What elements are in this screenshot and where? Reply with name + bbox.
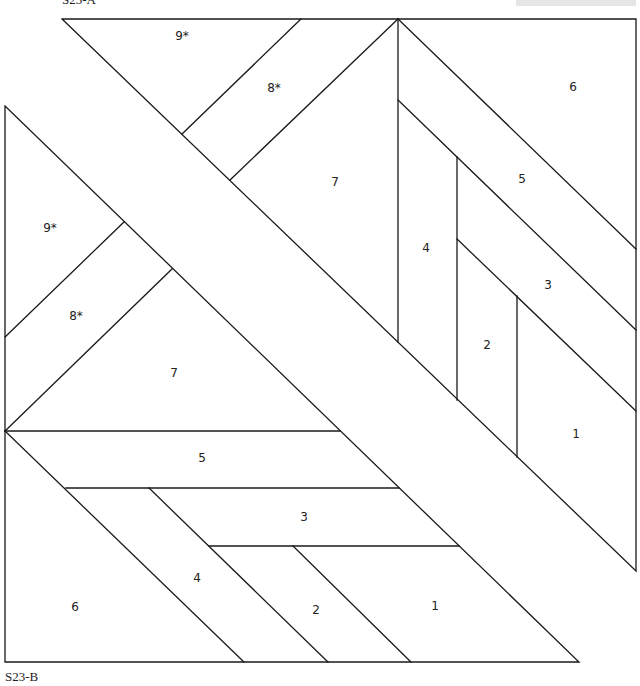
piece-b-7: 7: [170, 366, 178, 380]
seam-a-9-8: [182, 19, 301, 134]
piece-a-5: 5: [518, 172, 526, 186]
seam-b-9-8: [5, 222, 124, 337]
seam-b-6-4: [5, 431, 244, 662]
piece-a-2: 2: [483, 338, 491, 352]
piece-a-7: 7: [331, 175, 339, 189]
piece-b-8: 8*: [69, 309, 83, 323]
piece-a-1: 1: [572, 427, 580, 441]
piece-b-5: 5: [198, 451, 206, 465]
seam-a-8-7: [230, 19, 398, 180]
piece-b-9: 9*: [43, 221, 57, 235]
piece-b-2: 2: [312, 603, 320, 617]
section-b-outline: [5, 106, 579, 662]
piece-a-3: 3: [544, 278, 552, 292]
piece-a-4: 4: [422, 241, 430, 255]
piece-a-9: 9*: [175, 29, 189, 43]
piece-b-6: 6: [71, 600, 79, 614]
piece-a-8: 8*: [267, 81, 281, 95]
piece-a-6: 6: [569, 80, 577, 94]
seam-b-8-7: [5, 269, 172, 431]
pattern-diagram: 9* 8* 7 6 5 4 3 2 1 9* 8* 7 5 3 4 2 1 6: [0, 0, 640, 686]
seam-a-3-2: [457, 239, 636, 411]
piece-b-3: 3: [300, 510, 308, 524]
piece-b-1: 1: [431, 599, 439, 613]
piece-b-4: 4: [193, 571, 201, 585]
